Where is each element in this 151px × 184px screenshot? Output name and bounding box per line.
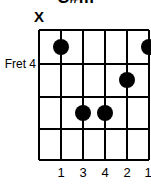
- finger-number-string-2: 1: [52, 166, 70, 179]
- finger-number-string-3: 3: [74, 166, 92, 179]
- fret-line-2: [39, 96, 149, 98]
- string-line-3: [82, 30, 84, 160]
- mute-marker-string-1: X: [31, 9, 47, 24]
- finger-number-string-4: 4: [96, 166, 114, 179]
- finger-dot-string-6-fret-1: [141, 39, 151, 55]
- fret-line-0: [39, 29, 149, 31]
- fret-line-1: [39, 63, 149, 65]
- finger-dot-string-5-fret-2: [119, 72, 135, 88]
- finger-number-string-6: 1: [139, 166, 151, 179]
- fret-line-3: [39, 128, 149, 130]
- finger-number-string-5: 2: [118, 166, 136, 179]
- fretboard-grid: [39, 30, 149, 160]
- finger-dot-string-2-fret-1: [53, 39, 69, 55]
- fret-position-label: Fret 4: [5, 58, 36, 70]
- string-line-4: [104, 30, 106, 160]
- string-line-5: [126, 30, 128, 160]
- string-line-1: [38, 30, 40, 160]
- finger-dot-string-4-fret-3: [97, 105, 113, 121]
- finger-dot-string-3-fret-3: [75, 105, 91, 121]
- fret-line-4: [39, 159, 149, 161]
- fret-position-label-wrap: Fret 4: [0, 58, 36, 70]
- chord-name-title: C#m: [0, 0, 151, 6]
- chord-diagram: C#m X Fret 4 1 3 4 2 1: [0, 0, 151, 184]
